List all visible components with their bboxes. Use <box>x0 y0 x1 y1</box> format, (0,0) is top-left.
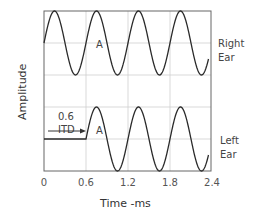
x-axis-title: Time -ms <box>99 197 151 210</box>
grid-lines <box>44 11 211 171</box>
right-ear-label-line1: Right <box>218 38 244 49</box>
left-ear-label-line1: Left <box>220 135 239 146</box>
x-tick-label: 0 <box>41 177 47 188</box>
right-peak-label: A <box>96 39 103 50</box>
x-tick-label: 1.8 <box>162 177 178 188</box>
right-ear-label-line2: Ear <box>218 52 235 63</box>
x-axis-ticks: 00.61.21.82.4 <box>41 177 220 188</box>
itd-label: ITD <box>58 124 75 135</box>
itd-waveform-chart: A A Right Ear Left Ear 0.6 ITD 00.61.21.… <box>0 0 254 216</box>
x-tick-label: 2.4 <box>204 177 220 188</box>
left-ear-label-line2: Ear <box>220 149 237 160</box>
x-tick-label: 1.2 <box>120 177 136 188</box>
itd-value-label: 0.6 <box>58 111 74 122</box>
y-axis-title: Amplitude <box>16 63 29 120</box>
plot-frame <box>44 11 211 171</box>
left-peak-label: A <box>96 125 103 136</box>
x-tick-label: 0.6 <box>78 177 94 188</box>
